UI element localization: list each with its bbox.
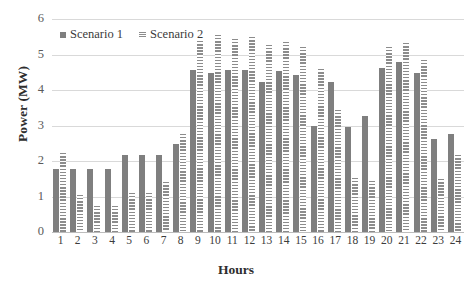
bar-scenario-1 (311, 126, 317, 233)
bar-scenario-1 (53, 169, 59, 232)
bar-scenario-2 (163, 182, 169, 232)
x-tick-label: 24 (447, 234, 464, 248)
y-tick-label: 6 (18, 12, 44, 25)
x-tick-label: 1 (52, 234, 69, 248)
bar-group (413, 19, 430, 232)
bar-scenario-2 (386, 47, 392, 232)
bar-scenario-2 (421, 60, 427, 232)
bar-scenario-2 (197, 41, 203, 232)
solid-square-icon (60, 32, 66, 38)
bar-scenario-1 (122, 155, 128, 232)
bar-scenario-1 (328, 82, 334, 232)
bar-scenario-2 (232, 39, 238, 232)
bar-group (327, 19, 344, 232)
bar-group (447, 19, 464, 232)
bar-scenario-2 (283, 42, 289, 232)
x-tick-label: 6 (138, 234, 155, 248)
bar-group (310, 19, 327, 232)
bar-group (292, 19, 309, 232)
bar-group (344, 19, 361, 232)
x-axis-tick-labels: 123456789101112131415161718192021222324 (52, 234, 464, 252)
x-tick-label: 11 (224, 234, 241, 248)
bar-scenario-1 (345, 127, 351, 232)
bar-scenario-2 (266, 45, 272, 232)
bar-scenario-2 (94, 206, 100, 232)
bar-group (395, 19, 412, 232)
x-tick-label: 20 (378, 234, 395, 248)
bar-scenario-1 (293, 75, 299, 232)
bar-chart: Power (MW) 0123456 123456789101112131415… (0, 0, 472, 282)
legend-label: Scenario 1 (70, 27, 123, 42)
x-tick-label: 10 (207, 234, 224, 248)
bar-scenario-1 (396, 62, 402, 232)
striped-square-icon (139, 32, 146, 38)
x-tick-label: 22 (413, 234, 430, 248)
bar-group (121, 19, 138, 232)
bar-scenario-1 (414, 73, 420, 232)
bar-group (207, 19, 224, 232)
bar-group (69, 19, 86, 232)
bar-scenario-1 (190, 70, 196, 232)
bar-scenario-2 (438, 179, 444, 232)
bar-group (241, 19, 258, 232)
bar-scenario-1 (208, 73, 214, 232)
x-tick-label: 5 (121, 234, 138, 248)
bar-scenario-2 (60, 153, 66, 232)
bar-scenario-1 (225, 70, 231, 232)
bar-scenario-1 (259, 82, 265, 232)
plot-area (52, 19, 464, 232)
bar-group (430, 19, 447, 232)
bar-scenario-1 (105, 169, 111, 232)
legend-entry-2[interactable]: Scenario 2 (139, 27, 203, 42)
y-tick-label: 1 (18, 190, 44, 203)
x-axis-title: Hours (0, 262, 472, 278)
gridline-0 (52, 232, 464, 233)
x-tick-label: 23 (430, 234, 447, 248)
x-tick-label: 8 (172, 234, 189, 248)
bar-scenario-1 (242, 70, 248, 232)
bar-scenario-1 (139, 155, 145, 232)
bar-scenario-1 (448, 134, 454, 232)
x-tick-label: 15 (292, 234, 309, 248)
bar-scenario-2 (335, 110, 341, 232)
x-tick-label: 12 (241, 234, 258, 248)
bar-scenario-2 (112, 206, 118, 232)
bar-group (52, 19, 69, 232)
bar-scenario-2 (129, 193, 135, 232)
x-tick-label: 7 (155, 234, 172, 248)
bar-group (86, 19, 103, 232)
bar-scenario-2 (215, 35, 221, 232)
x-tick-label: 3 (86, 234, 103, 248)
bar-scenario-2 (403, 43, 409, 232)
bar-scenario-2 (180, 134, 186, 232)
bar-group (189, 19, 206, 232)
bar-group (172, 19, 189, 232)
bar-scenario-2 (249, 37, 255, 232)
x-tick-label: 13 (258, 234, 275, 248)
bar-scenario-1 (362, 116, 368, 232)
bar-group (361, 19, 378, 232)
bar-group (138, 19, 155, 232)
bar-group (378, 19, 395, 232)
y-tick-label: 0 (18, 225, 44, 238)
legend-entry-1[interactable]: Scenario 1 (60, 27, 123, 42)
bar-scenario-2 (146, 193, 152, 232)
x-tick-label: 4 (104, 234, 121, 248)
x-tick-label: 18 (344, 234, 361, 248)
bar-scenario-2 (369, 181, 375, 232)
bar-scenario-1 (431, 139, 437, 232)
bar-group (104, 19, 121, 232)
x-tick-label: 2 (69, 234, 86, 248)
bar-scenario-2 (352, 178, 358, 232)
bar-scenario-2 (318, 69, 324, 232)
bar-group (258, 19, 275, 232)
bar-scenario-1 (156, 155, 162, 232)
bar-scenario-1 (70, 169, 76, 232)
bar-group (155, 19, 172, 232)
bar-group (275, 19, 292, 232)
legend-label: Scenario 2 (150, 27, 203, 42)
chart-legend: Scenario 1Scenario 2 (60, 27, 203, 42)
x-tick-label: 17 (327, 234, 344, 248)
y-axis-title: Power (MW) (15, 34, 31, 174)
bar-scenario-1 (379, 68, 385, 232)
